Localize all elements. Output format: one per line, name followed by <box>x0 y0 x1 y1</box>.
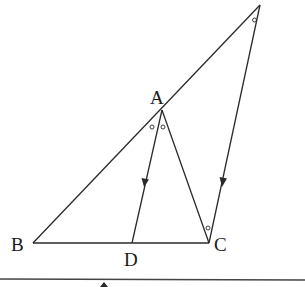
segment-ac <box>162 110 209 243</box>
segment-ec <box>209 5 260 243</box>
angle-mark-ace-icon <box>206 226 210 230</box>
label-d: D <box>124 249 138 270</box>
segment-ad <box>132 110 162 243</box>
bottom-divider <box>0 279 305 280</box>
angle-mark-dac-icon <box>161 125 165 129</box>
label-c: C <box>214 234 227 255</box>
angle-mark-bad-icon <box>150 125 154 129</box>
angle-mark-e-icon <box>253 18 257 22</box>
parallel-arrow-ec-icon <box>220 177 228 187</box>
label-e: E <box>256 0 268 3</box>
label-b: B <box>11 234 24 255</box>
up-arrow-icon <box>100 282 108 287</box>
triangle-diagram: A B C D E <box>0 0 305 287</box>
label-a: A <box>150 87 164 108</box>
segment-be <box>33 5 260 243</box>
